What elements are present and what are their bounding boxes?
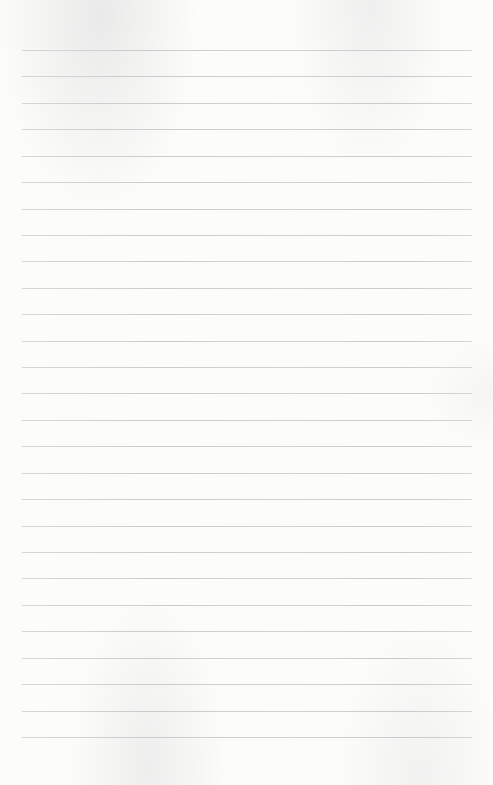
ruled-line [22,50,472,51]
ruled-line [22,182,472,183]
lined-paper-sheet [0,0,493,785]
ruled-line [22,261,472,262]
ruled-line [22,658,472,659]
ruled-line [22,209,472,210]
ruled-line [22,314,472,315]
ruled-line [22,367,472,368]
ruled-line [22,578,472,579]
ruled-line [22,393,472,394]
ruled-line [22,446,472,447]
ruled-line [22,103,472,104]
ruled-line [22,341,472,342]
ruled-line [22,473,472,474]
ruled-line [22,605,472,606]
ruled-line [22,129,472,130]
ruled-line [22,235,472,236]
ruled-line [22,76,472,77]
ruled-line [22,684,472,685]
ruled-line [22,631,472,632]
ruled-line [22,288,472,289]
ruled-line [22,526,472,527]
ruled-line [22,711,472,712]
ruled-line [22,737,472,738]
ruled-line [22,499,472,500]
ruled-line [22,156,472,157]
ruled-line [22,420,472,421]
ruled-line [22,552,472,553]
